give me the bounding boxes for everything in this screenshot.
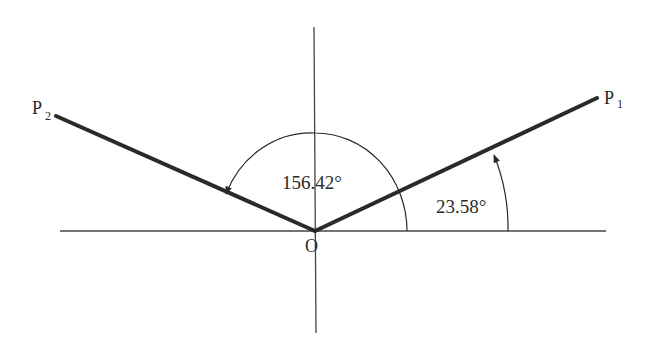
svg-text:2: 2 bbox=[45, 109, 51, 123]
angle-label-156: 156.42° bbox=[282, 172, 342, 193]
point-label-p1: P 1 bbox=[604, 88, 623, 111]
svg-text:P: P bbox=[32, 98, 42, 118]
svg-text:1: 1 bbox=[617, 97, 623, 111]
arc-23-58 bbox=[494, 155, 508, 231]
origin-label: O bbox=[305, 236, 318, 256]
ray-op2 bbox=[56, 116, 315, 231]
angle-label-23: 23.58° bbox=[436, 196, 486, 217]
svg-text:P: P bbox=[604, 88, 614, 108]
point-label-p2: P 2 bbox=[32, 98, 51, 123]
angle-diagram: 156.42° 23.58° O P 1 P 2 bbox=[0, 0, 646, 356]
